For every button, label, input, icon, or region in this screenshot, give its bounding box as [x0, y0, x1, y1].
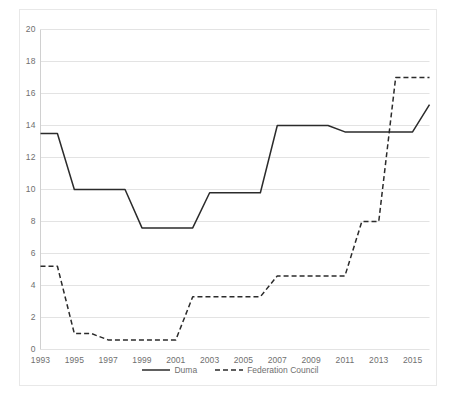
chart-container: 02468101214161820 1993199519971999200120…: [0, 0, 461, 410]
x-tick-label: 2015: [393, 355, 433, 365]
data-series-layer: [41, 78, 430, 340]
y-tick-label: 10: [14, 184, 36, 194]
chart-plot-area: [0, 0, 461, 410]
legend-item-duma[interactable]: Duma: [142, 364, 197, 375]
y-tick-label: 20: [14, 24, 36, 34]
y-tick-label: 18: [14, 56, 36, 66]
legend-label: Duma: [174, 365, 197, 375]
y-tick-label: 12: [14, 152, 36, 162]
y-tick-label: 6: [14, 248, 36, 258]
series-line-federation-council: [41, 78, 430, 340]
legend-swatch-dashed-icon: [215, 366, 243, 374]
legend-label: Federation Council: [247, 365, 318, 375]
series-line-duma: [41, 105, 430, 228]
y-tick-label: 0: [14, 344, 36, 354]
legend-swatch-solid-icon: [142, 366, 170, 374]
y-tick-label: 4: [14, 280, 36, 290]
y-tick-label: 16: [14, 88, 36, 98]
legend-item-federation-council[interactable]: Federation Council: [215, 364, 318, 375]
y-tick-label: 8: [14, 216, 36, 226]
chart-legend: DumaFederation Council: [0, 364, 461, 375]
y-tick-label: 2: [14, 312, 36, 322]
y-tick-label: 14: [14, 120, 36, 130]
